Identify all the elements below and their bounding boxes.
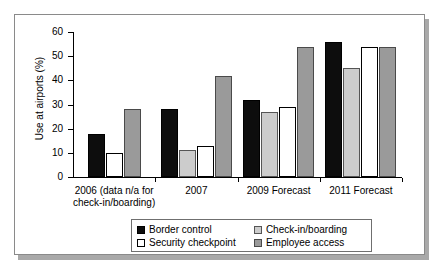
legend-label: Security checkpoint xyxy=(149,237,236,248)
chart-panel: Use at airports (%) 0102030405060 2006 (… xyxy=(14,14,425,255)
bar xyxy=(297,47,314,178)
bar xyxy=(124,109,141,177)
bar-series-container xyxy=(73,32,402,177)
x-axis-separator xyxy=(155,178,156,182)
legend-label: Employee access xyxy=(266,237,344,248)
y-tick-label: 40 xyxy=(33,75,63,85)
y-tick-label: 20 xyxy=(33,124,63,134)
x-category-label-line: 2011 Forecast xyxy=(306,185,416,197)
legend-item-security-checkpoint: Security checkpoint xyxy=(137,237,254,248)
bar xyxy=(279,107,296,177)
bar xyxy=(88,134,105,178)
legend-label: Border control xyxy=(149,224,212,235)
legend-row: Border control Check-in/boarding xyxy=(137,223,366,236)
bar xyxy=(161,109,178,177)
x-axis-separator xyxy=(402,178,403,182)
plot-area: Use at airports (%) 0102030405060 2006 (… xyxy=(15,15,426,256)
chart-legend: Border control Check-in/boarding Securit… xyxy=(131,219,372,252)
bar-chart-figure: Use at airports (%) 0102030405060 2006 (… xyxy=(0,0,442,270)
bar xyxy=(215,76,232,178)
bar xyxy=(243,100,260,177)
bar xyxy=(197,146,214,177)
bar xyxy=(343,68,360,177)
bar xyxy=(361,47,378,178)
legend-item-check-in-boarding: Check-in/boarding xyxy=(254,224,366,235)
x-category-label-line: check-in/boarding) xyxy=(59,197,169,209)
legend-row: Security checkpoint Employee access xyxy=(137,236,366,249)
bar xyxy=(325,42,342,177)
bar xyxy=(179,150,196,177)
y-tick-label: 30 xyxy=(33,100,63,110)
y-tick-mark xyxy=(68,177,73,178)
x-axis-separator xyxy=(238,178,239,182)
legend-item-employee-access: Employee access xyxy=(254,237,366,248)
legend-label: Check-in/boarding xyxy=(266,224,347,235)
y-tick-label: 10 xyxy=(33,148,63,158)
medium-gray-swatch-icon xyxy=(254,239,262,247)
x-axis-separator xyxy=(320,178,321,182)
y-tick-label: 50 xyxy=(33,51,63,61)
legend-item-border-control: Border control xyxy=(137,224,254,235)
bar xyxy=(261,112,278,177)
bar xyxy=(106,153,123,177)
y-tick-label: 0 xyxy=(33,172,63,182)
bar xyxy=(379,47,396,178)
white-swatch-icon xyxy=(137,239,145,247)
y-tick-label: 60 xyxy=(33,27,63,37)
light-gray-swatch-icon xyxy=(254,226,262,234)
x-category-label: 2011 Forecast xyxy=(306,185,416,197)
black-swatch-icon xyxy=(137,226,145,234)
